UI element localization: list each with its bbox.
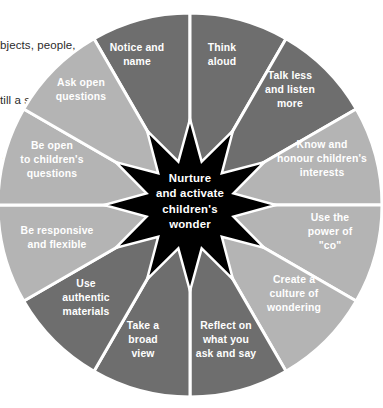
wheel-segment-label: Reflect onwhat youask and say xyxy=(196,320,257,358)
wheel-segment-label: Take abroadview xyxy=(127,320,160,358)
wonder-wheel-diagram: Nurtureand activatechildren'swonder Noti… xyxy=(0,0,383,408)
wonder-wheel-figure: bjects, people, till a sense Allow ell, … xyxy=(0,0,383,408)
wheel-segment-label: Create aculture ofwondering xyxy=(266,274,321,312)
